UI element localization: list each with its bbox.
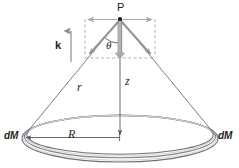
label-mass-element-right: dM [218, 131, 232, 141]
label-distance-r: r [77, 81, 82, 93]
label-radius-R: R [68, 128, 75, 140]
label-point-p: P [117, 2, 124, 13]
component-arrow-left [90, 21, 120, 54]
component-arrow-right [121, 21, 151, 54]
label-angle-theta: θ [106, 40, 111, 51]
label-mass-element-left: dM [4, 131, 18, 141]
label-unit-vector-k: k [55, 40, 61, 51]
physics-diagram-ring-gravitation: P k θ r z R dM dM [0, 0, 239, 168]
label-distance-z: z [125, 75, 130, 87]
point-p-marker [118, 17, 122, 21]
diagram-canvas [0, 0, 239, 168]
